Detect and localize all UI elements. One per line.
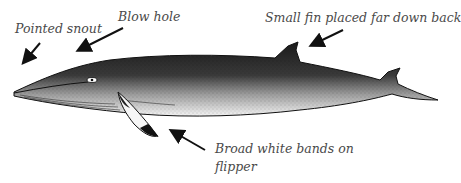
label-pointed-snout: Pointed snout bbox=[15, 23, 102, 36]
flipper-arrow bbox=[172, 131, 205, 150]
label-flipper: flipper bbox=[215, 161, 257, 174]
snout-arrow bbox=[24, 43, 40, 62]
label-blow-hole: Blow hole bbox=[118, 11, 180, 24]
fin-arrow bbox=[312, 30, 343, 45]
label-small-fin: Small fin placed far down back bbox=[265, 12, 461, 25]
whale-body bbox=[14, 42, 438, 116]
label-broad-white-bands: Broad white bands on bbox=[215, 143, 354, 156]
